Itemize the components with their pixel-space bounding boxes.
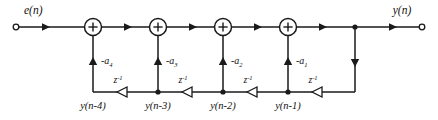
adder-1[interactable] — [85, 19, 102, 36]
adder-2[interactable] — [150, 19, 167, 36]
delay-2-label: z-1 — [177, 74, 187, 86]
delay-3-label: z-1 — [242, 74, 252, 86]
coef-a2-label: -a2 — [231, 55, 243, 68]
input-terminal[interactable] — [13, 24, 19, 30]
arrowhead-a2 — [219, 57, 227, 65]
coef-a3-label: -a3 — [166, 55, 178, 68]
delay-4-triangle[interactable] — [312, 87, 322, 97]
flow-graph-canvas: e(n) y(n) — [0, 0, 438, 120]
feedback-branch-a2 — [219, 36, 227, 93]
delay-2-triangle[interactable] — [182, 87, 192, 97]
node-label-yn1: y(n-1) — [274, 100, 301, 112]
coef-a4-label: -a4 — [101, 55, 113, 68]
arrowhead-a3 — [154, 57, 162, 65]
arrowhead-seg1 — [124, 23, 132, 31]
arrowhead-input — [42, 23, 50, 31]
node-label-yn3: y(n-3) — [144, 100, 171, 112]
node-dot-yn3 — [155, 89, 160, 94]
node-label-yn4: y(n-4) — [79, 100, 106, 112]
feedback-branch-a1 — [284, 36, 292, 93]
arrowhead-output — [389, 23, 397, 31]
output-tap-node — [352, 24, 357, 29]
adder-3[interactable] — [215, 19, 232, 36]
arrowhead-a4 — [89, 57, 97, 65]
output-label: y(n) — [392, 4, 412, 17]
node-label-yn2: y(n-2) — [209, 100, 236, 112]
output-terminal[interactable] — [419, 24, 425, 30]
signal-flow-diagram: e(n) y(n) — [0, 0, 438, 120]
arrowhead-seg4 — [319, 23, 327, 31]
node-dot-yn1 — [285, 89, 290, 94]
delay-1-label: z-1 — [112, 74, 122, 86]
arrowhead-output-tap — [351, 59, 359, 67]
node-dot-yn2 — [220, 89, 225, 94]
coef-a1-label: -a1 — [296, 55, 308, 68]
delay-3-triangle[interactable] — [247, 87, 257, 97]
arrowhead-seg3 — [254, 23, 262, 31]
feedback-branch-a3 — [154, 36, 162, 93]
feedback-branch-a4 — [89, 36, 97, 93]
output-tap-branch — [351, 24, 359, 92]
delay-1-triangle[interactable] — [117, 87, 127, 97]
delay-4-label: z-1 — [307, 74, 317, 86]
input-label: e(n) — [24, 4, 43, 17]
arrowhead-a1 — [284, 57, 292, 65]
adder-4[interactable] — [280, 19, 297, 36]
arrowhead-seg2 — [189, 23, 197, 31]
